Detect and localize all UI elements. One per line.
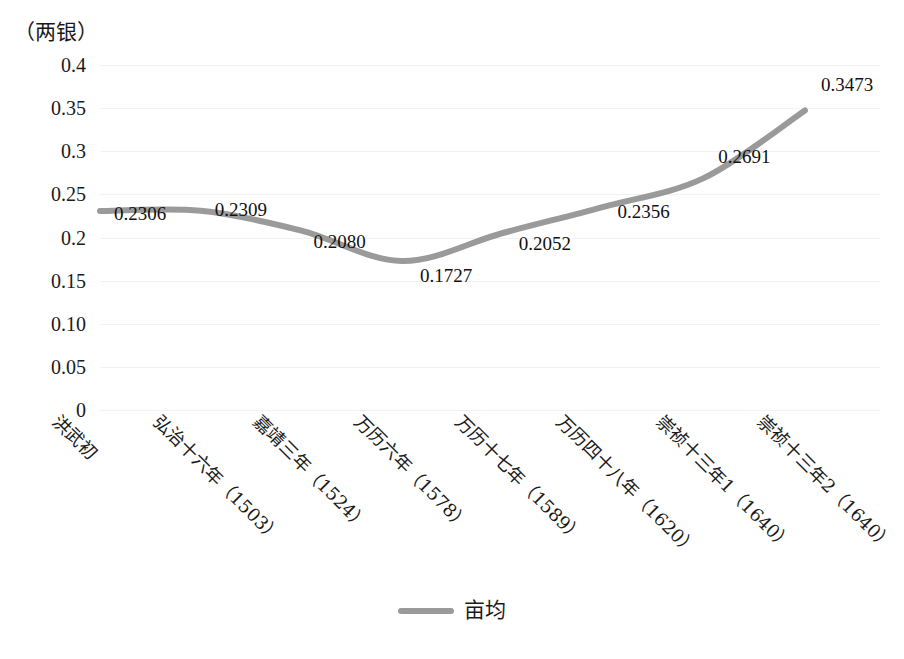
data-value-label: 0.1727 [420,266,472,285]
y-axis-tick-label: 0.3 [12,141,86,161]
data-value-label: 0.3473 [821,75,873,94]
gridline [100,410,880,411]
y-axis-tick-label: 0.10 [12,314,86,334]
plot-area: 0.23060.23090.20800.17270.20520.23560.26… [100,65,880,410]
data-value-label: 0.2306 [114,204,166,223]
data-value-label: 0.2356 [618,202,670,221]
y-axis-tick-label: 0.15 [12,271,86,291]
data-value-label: 0.2080 [313,232,365,251]
legend-label-亩均: 亩均 [464,600,506,621]
y-axis-unit-caption: （两银） [14,22,98,43]
chart-legend: 亩均 [0,600,904,621]
series-path-亩均 [100,110,805,261]
y-axis-tick-label: 0.2 [12,228,86,248]
data-value-label: 0.2052 [519,234,571,253]
chart-page: （两银） 0.40.350.30.250.20.150.100.050 0.23… [0,0,904,659]
y-axis-tick-label: 0.4 [12,55,86,75]
legend-swatch-亩均 [398,608,454,614]
y-axis-tick-label: 0.35 [12,98,86,118]
x-axis-category-label: 洪武初 [49,412,100,463]
y-axis-tick-label: 0.25 [12,184,86,204]
x-axis-category-labels: 洪武初弘治十六年（1503）嘉靖三年（1524）万历六年（1578）万历十七年（… [0,412,904,592]
series-line-亩均 [100,65,880,410]
y-axis-tick-labels: 0.40.350.30.250.20.150.100.050 [12,65,86,410]
data-value-label: 0.2309 [215,200,267,219]
y-axis-tick-label: 0.05 [12,357,86,377]
data-value-label: 0.2691 [718,147,770,166]
